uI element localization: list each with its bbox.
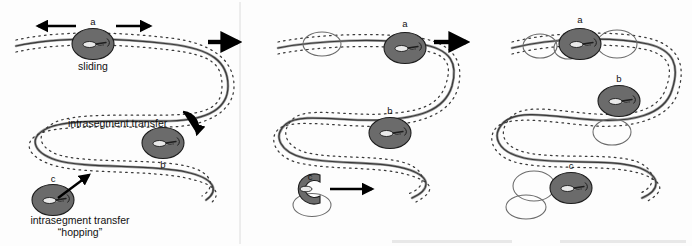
protein-c-label: c (51, 173, 56, 184)
protein-c-right (550, 173, 592, 204)
protein-b-label-right: b (616, 73, 621, 84)
hopping-label-line2: “hopping” (58, 226, 103, 238)
intrasegment-transfer-label: intrasegment transfer (68, 117, 168, 129)
protein-a-label-right: a (577, 14, 583, 25)
protein-c-label-right: c (569, 160, 574, 171)
protein-b (142, 128, 184, 159)
sliding-label: sliding (78, 60, 108, 72)
protein-b-right (598, 86, 640, 117)
protein-b-label-mid: b (387, 105, 392, 116)
protein-a-label-mid: a (402, 18, 408, 29)
dna-protein-translocation-figure: a sliding intrasegment transfer b c intr… (0, 0, 692, 246)
protein-a (72, 29, 114, 60)
protein-b-mid (369, 118, 411, 149)
protein-c (32, 185, 74, 216)
protein-a-right (559, 29, 601, 60)
protein-a-mid (384, 33, 426, 64)
protein-c-label-mid: c (308, 171, 313, 182)
protein-b-label: b (160, 159, 165, 170)
hopping-label-line1: intrasegment transfer (30, 214, 130, 226)
protein-a-label: a (90, 16, 96, 27)
